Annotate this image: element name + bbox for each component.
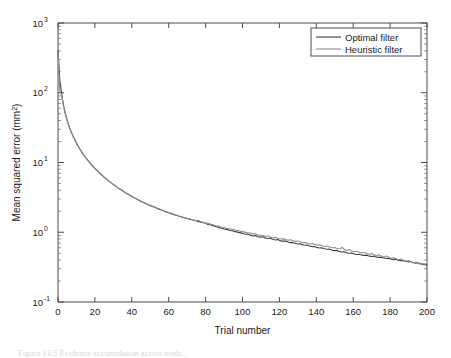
x-tick-label: 100: [235, 306, 251, 317]
svg-text:Mean squared error (mm2): Mean squared error (mm2): [11, 104, 23, 222]
svg-text:10: 10: [32, 157, 43, 168]
x-tick-label: 120: [271, 306, 287, 317]
svg-text:2: 2: [44, 85, 48, 92]
x-tick-label: 60: [163, 306, 174, 317]
x-tick-label: 80: [200, 306, 211, 317]
y-tick-label: 100: [32, 225, 48, 238]
x-tick-label: 160: [345, 306, 361, 317]
svg-text:0: 0: [44, 225, 48, 232]
figure-caption: Figure 13.5 Evidence accumulation across…: [18, 348, 438, 358]
x-tick-label: 200: [419, 306, 435, 317]
y-axis-title: Mean squared error (mm2): [11, 104, 23, 222]
series-line-optimal-filter: [58, 51, 427, 265]
svg-text:1: 1: [44, 155, 48, 162]
svg-text:10: 10: [32, 87, 43, 98]
x-axis-title: Trial number: [215, 325, 271, 336]
y-tick-label: 102: [32, 85, 48, 98]
data-curves-layer: [58, 51, 427, 266]
svg-text:10: 10: [32, 18, 43, 29]
plot-box: [58, 23, 427, 302]
x-tick-label: 180: [382, 306, 398, 317]
svg-text:-1: -1: [44, 295, 50, 302]
svg-text:10: 10: [32, 297, 43, 308]
x-tick-label: 20: [90, 306, 101, 317]
y-tick-label: 10-1: [32, 295, 50, 308]
legend-label: Optimal filter: [345, 32, 398, 43]
y-tick-label: 101: [32, 155, 48, 168]
svg-text:3: 3: [44, 16, 48, 23]
x-tick-label: 0: [55, 306, 60, 317]
y-tick-label: 103: [32, 16, 48, 29]
svg-text:10: 10: [32, 227, 43, 238]
legend[interactable]: Optimal filterHeuristic filter: [311, 28, 421, 56]
axis-ticks-layer: [58, 23, 427, 302]
x-tick-label: 40: [127, 306, 138, 317]
axis-frame: [58, 23, 427, 302]
x-tick-label: 140: [308, 306, 324, 317]
legend-label: Heuristic filter: [345, 44, 403, 55]
